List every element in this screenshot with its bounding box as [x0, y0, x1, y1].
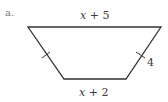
top-base-label: x + 5: [80, 9, 109, 22]
part-label: a.: [5, 7, 14, 18]
leg-label: 4: [147, 56, 154, 69]
bottom-base-label: x + 2: [79, 86, 108, 99]
trapezoid-diagram: a. x + 5 x + 2 4: [0, 0, 168, 102]
